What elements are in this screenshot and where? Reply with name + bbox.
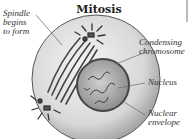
label-nucleus: Nucleus: [148, 78, 177, 87]
label-nuclear-envelope: Nuclear envelope: [148, 109, 180, 127]
label-spindle: Spindle begins to form: [3, 9, 30, 36]
nucleus: [77, 59, 129, 111]
label-condensing-chromosome: Condensing chromosome: [139, 38, 185, 56]
